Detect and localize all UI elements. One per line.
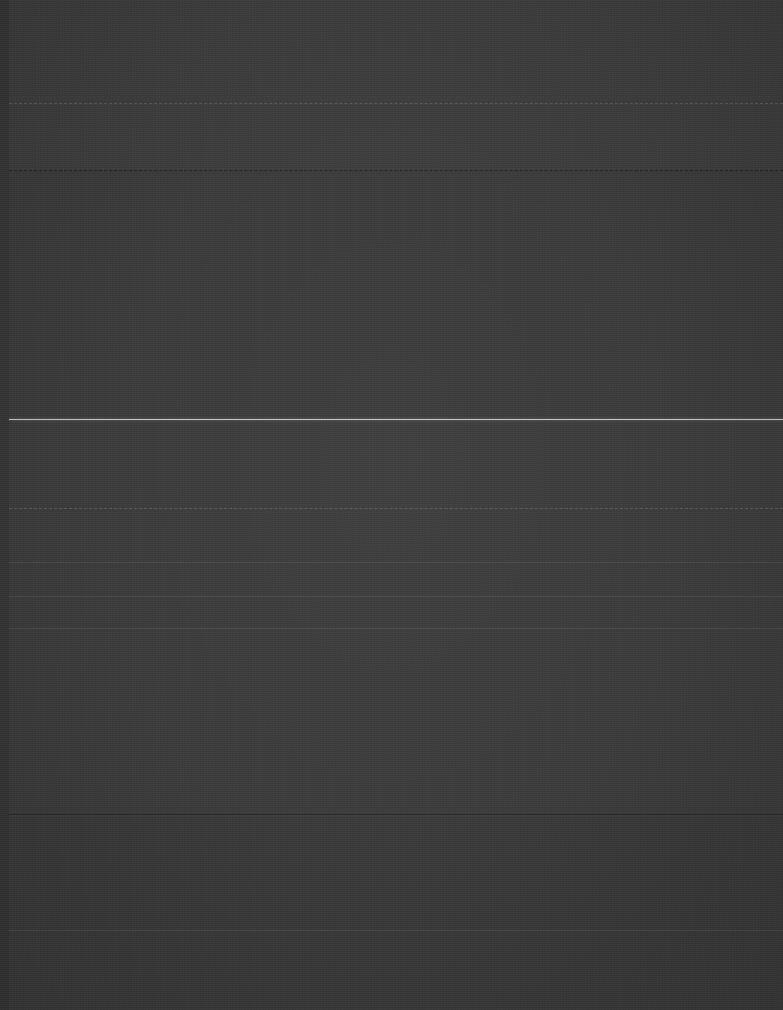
content-line xyxy=(15,374,783,385)
content-line xyxy=(15,276,783,287)
content-line xyxy=(15,772,783,783)
content-line xyxy=(15,150,783,161)
content-line xyxy=(15,950,783,961)
faint-dashed-rule-mid xyxy=(9,508,783,510)
faint-rule-d xyxy=(9,930,783,931)
content-line xyxy=(15,664,783,675)
content-line xyxy=(15,736,783,747)
content-line xyxy=(15,196,783,207)
bright-separator-rule xyxy=(9,419,783,420)
content-line xyxy=(15,982,783,993)
content-line xyxy=(15,912,783,923)
dark-divider-footer xyxy=(9,814,783,815)
content-line xyxy=(15,318,783,329)
content-line xyxy=(15,126,783,137)
content-line xyxy=(15,262,783,273)
content-area[interactable] xyxy=(9,0,783,1010)
content-line xyxy=(15,82,783,93)
content-line xyxy=(15,486,783,497)
content-line xyxy=(15,464,783,475)
faint-dashed-rule-top xyxy=(9,103,783,105)
content-line xyxy=(15,290,783,301)
content-line xyxy=(15,596,783,607)
content-line xyxy=(15,876,783,887)
content-line xyxy=(15,562,783,573)
faint-rule-a xyxy=(9,562,783,563)
content-line xyxy=(15,222,783,233)
content-line xyxy=(15,248,783,259)
dark-divider-upper xyxy=(9,170,783,172)
content-line xyxy=(15,530,783,541)
content-line xyxy=(15,628,783,639)
content-line xyxy=(15,840,783,851)
faint-rule-c xyxy=(9,628,783,629)
content-line xyxy=(15,700,783,711)
content-line xyxy=(15,352,783,363)
screen-capture xyxy=(0,0,783,1010)
content-line xyxy=(15,58,783,69)
content-line xyxy=(15,332,783,343)
region-middle-band xyxy=(9,420,783,815)
content-line xyxy=(15,304,783,315)
content-line xyxy=(15,440,783,451)
content-line xyxy=(15,396,783,407)
content-line xyxy=(15,34,783,45)
faint-rule-b xyxy=(9,596,783,597)
